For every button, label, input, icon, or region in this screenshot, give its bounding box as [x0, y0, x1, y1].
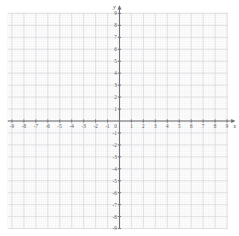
- y-tick-label-4: 4: [114, 70, 117, 76]
- y-tick-label-6: 6: [114, 46, 117, 52]
- y-tick-label-3: 3: [114, 82, 117, 88]
- x-tick-label-4: 4: [166, 123, 169, 129]
- x-tick-label-7: 7: [202, 123, 205, 129]
- x-tick-label-neg7: -7: [34, 123, 39, 129]
- y-tick-label-neg5: -5: [113, 178, 118, 184]
- x-tick-label-neg9: -9: [10, 123, 15, 129]
- y-tick-label-neg7: -7: [113, 202, 118, 208]
- y-tick-label-neg4: -4: [113, 166, 118, 172]
- x-tick-label-neg8: -8: [22, 123, 27, 129]
- x-tick-label-2: 2: [142, 123, 145, 129]
- y-tick-label-neg3: -3: [113, 154, 118, 160]
- y-tick-label-neg1: -1: [113, 130, 118, 136]
- y-tick-label-9: 9: [114, 10, 117, 16]
- y-axis-name: y: [112, 4, 116, 10]
- x-tick-label-3: 3: [154, 123, 157, 129]
- y-tick-label-neg6: -6: [113, 190, 118, 196]
- x-tick-label-8: 8: [214, 123, 217, 129]
- y-tick-label-7: 7: [114, 34, 117, 40]
- x-tick-label-6: 6: [190, 123, 193, 129]
- y-tick-label-8: 8: [114, 22, 117, 28]
- x-tick-label-neg4: -4: [70, 123, 75, 129]
- y-tick-label-5: 5: [114, 58, 117, 64]
- y-tick-label-neg2: -2: [113, 142, 118, 148]
- origin-label: 0: [114, 123, 117, 129]
- x-tick-label-neg1: -1: [105, 123, 110, 129]
- y-tick-label-1: 1: [114, 106, 117, 112]
- x-axis-name: x: [232, 123, 236, 129]
- y-tick-label-2: 2: [114, 94, 117, 100]
- axis-names: xy: [112, 4, 236, 128]
- x-tick-label-5: 5: [178, 123, 181, 129]
- y-tick-label-neg9: -9: [113, 225, 118, 231]
- y-tick-label-neg8: -8: [113, 214, 118, 220]
- coordinate-plane: -9-8-7-6-5-4-3-2-1123456789987654321-1-2…: [0, 0, 239, 236]
- x-tick-label-neg2: -2: [93, 123, 98, 129]
- x-tick-label-neg6: -6: [46, 123, 51, 129]
- x-tick-label-neg5: -5: [58, 123, 63, 129]
- x-tick-label-1: 1: [130, 123, 133, 129]
- coordinate-grid-svg: -9-8-7-6-5-4-3-2-1123456789987654321-1-2…: [0, 0, 239, 236]
- y-axis-arrowhead: [118, 5, 122, 9]
- x-tick-label-9: 9: [226, 123, 229, 129]
- x-tick-label-neg3: -3: [81, 123, 86, 129]
